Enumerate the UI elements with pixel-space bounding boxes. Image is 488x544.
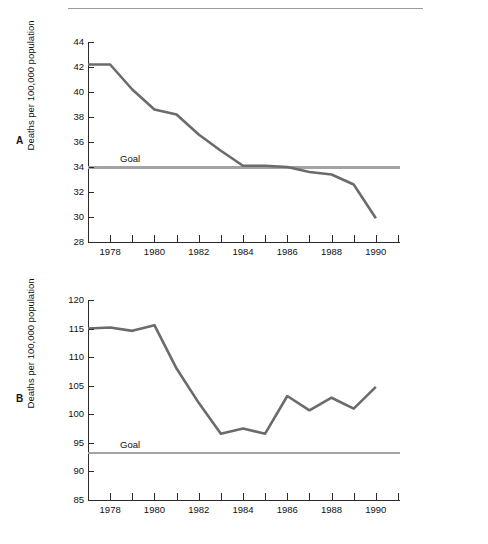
- x-tick-mark: [398, 235, 399, 242]
- plot-area-a: Goal 28303234363840424419781980198219841…: [88, 42, 398, 242]
- y-tick-mark: [89, 217, 94, 218]
- panel-letter-b: B: [16, 393, 23, 404]
- y-tick-mark: [89, 42, 94, 43]
- y-tick-mark: [89, 67, 94, 68]
- x-tick-label: 1980: [144, 504, 165, 515]
- x-tick-label: 1978: [100, 246, 121, 257]
- x-tick-label: 1982: [188, 504, 209, 515]
- y-tick-label: 85: [73, 494, 84, 505]
- x-tick-mark: [199, 235, 200, 242]
- x-tick-mark: [287, 493, 288, 500]
- plot-area-b: Goal 85909510010511011512019781980198219…: [88, 300, 398, 500]
- x-tick-label: 1984: [232, 246, 253, 257]
- y-tick-label: 34: [73, 161, 84, 172]
- x-tick-mark: [287, 235, 288, 242]
- x-tick-label: 1988: [321, 246, 342, 257]
- x-tick-mark: [354, 235, 355, 242]
- x-axis-line-a: [88, 242, 400, 243]
- y-tick-mark: [89, 357, 94, 358]
- x-tick-mark: [199, 493, 200, 500]
- x-tick-mark: [177, 493, 178, 500]
- x-tick-label: 1978: [100, 504, 121, 515]
- y-tick-label: 44: [73, 36, 84, 47]
- y-tick-mark: [89, 92, 94, 93]
- x-tick-label: 1980: [144, 246, 165, 257]
- x-tick-mark: [177, 235, 178, 242]
- x-tick-mark: [309, 493, 310, 500]
- x-tick-mark: [110, 235, 111, 242]
- y-tick-label: 32: [73, 186, 84, 197]
- y-tick-mark: [89, 443, 94, 444]
- panel-letter-a: A: [16, 135, 23, 146]
- x-tick-mark: [110, 493, 111, 500]
- x-tick-mark: [309, 235, 310, 242]
- y-tick-mark: [89, 192, 94, 193]
- x-tick-mark: [265, 493, 266, 500]
- x-tick-mark: [376, 493, 377, 500]
- x-tick-mark: [376, 235, 377, 242]
- x-tick-mark: [354, 493, 355, 500]
- x-tick-label: 1990: [365, 504, 386, 515]
- y-tick-label: 115: [69, 323, 84, 334]
- chart-panel-b: B Deaths per 100,000 population Goal 859…: [0, 288, 488, 538]
- y-tick-label: 90: [73, 465, 84, 476]
- x-tick-mark: [154, 235, 155, 242]
- x-tick-mark: [332, 493, 333, 500]
- figure-page: A Deaths per 100,000 population Goal 283…: [0, 0, 488, 544]
- series-line-a: [88, 42, 398, 242]
- y-tick-label: 30: [73, 211, 84, 222]
- y-tick-label: 100: [68, 408, 84, 419]
- y-tick-label: 105: [68, 380, 84, 391]
- y-tick-label: 95: [73, 437, 84, 448]
- y-tick-label: 110: [69, 351, 84, 362]
- y-tick-mark: [89, 142, 94, 143]
- y-tick-mark: [89, 500, 94, 501]
- series-line-b: [88, 300, 398, 500]
- y-tick-label: 38: [73, 111, 84, 122]
- x-tick-mark: [88, 493, 89, 500]
- x-tick-mark: [332, 235, 333, 242]
- x-tick-mark: [243, 493, 244, 500]
- y-tick-label: 36: [73, 136, 84, 147]
- x-axis-line-b: [88, 500, 400, 501]
- x-tick-label: 1982: [188, 246, 209, 257]
- y-axis-title-b: Deaths per 100,000 population: [25, 254, 36, 434]
- y-tick-mark: [89, 414, 94, 415]
- x-tick-label: 1986: [277, 504, 298, 515]
- x-tick-label: 1990: [365, 246, 386, 257]
- y-tick-label: 40: [73, 86, 84, 97]
- x-tick-mark: [398, 493, 399, 500]
- x-tick-mark: [132, 493, 133, 500]
- y-tick-mark: [89, 300, 94, 301]
- y-tick-label: 42: [73, 61, 84, 72]
- x-tick-mark: [132, 235, 133, 242]
- x-tick-mark: [154, 493, 155, 500]
- y-axis-title-a: Deaths per 100,000 population: [25, 0, 36, 176]
- x-tick-label: 1986: [277, 246, 298, 257]
- x-tick-label: 1988: [321, 504, 342, 515]
- x-tick-label: 1984: [232, 504, 253, 515]
- x-tick-mark: [243, 235, 244, 242]
- x-tick-mark: [221, 235, 222, 242]
- y-tick-label: 28: [73, 236, 84, 247]
- x-tick-mark: [265, 235, 266, 242]
- top-horizontal-rule: [68, 8, 423, 9]
- y-tick-mark: [89, 471, 94, 472]
- x-tick-mark: [221, 493, 222, 500]
- y-tick-mark: [89, 329, 94, 330]
- y-tick-mark: [89, 117, 94, 118]
- chart-panel-a: A Deaths per 100,000 population Goal 283…: [0, 30, 488, 280]
- x-tick-mark: [88, 235, 89, 242]
- y-tick-mark: [89, 242, 94, 243]
- y-tick-mark: [89, 167, 94, 168]
- y-tick-label: 120: [68, 294, 84, 305]
- y-tick-mark: [89, 386, 94, 387]
